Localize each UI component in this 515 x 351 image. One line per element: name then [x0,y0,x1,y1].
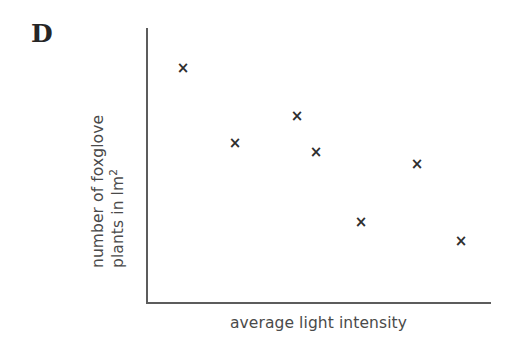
data-point-marker: × [353,214,369,230]
data-point-marker: × [453,233,469,249]
plot-area: ××××××× [0,0,515,351]
x-axis-line [146,302,491,304]
y-axis-title-line-2-text: plants in lm [109,176,127,268]
data-point-marker: × [227,135,243,151]
y-axis-title: number of foxglove plants in lm2 [88,38,128,268]
panel-letter-label: D [31,20,53,48]
data-point-marker: × [289,108,305,124]
y-axis-line [146,28,148,304]
x-axis-title: average light intensity [146,313,491,333]
y-axis-title-line-2: plants in lm2 [108,38,128,268]
data-point-marker: × [175,60,191,76]
data-point-marker: × [409,156,425,172]
figure-panel-d: D number of foxglove plants in lm2 avera… [0,0,515,351]
y-axis-title-line-1: number of foxglove [88,38,108,268]
y-axis-title-superscript: 2 [107,169,119,176]
data-point-marker: × [308,144,324,160]
